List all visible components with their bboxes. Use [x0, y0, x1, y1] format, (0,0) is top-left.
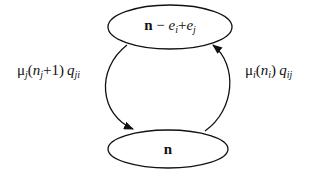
edge-left-arrow [105, 45, 133, 129]
n-vector: n [164, 141, 172, 157]
mu-symbol: μ [245, 62, 253, 78]
edge-right-arrow [205, 45, 230, 131]
node-top-label: n − ei+ej [130, 18, 210, 33]
q-symbol: q [67, 62, 75, 78]
subscript: j [193, 24, 196, 35]
subscript: ij [287, 69, 293, 80]
mu-symbol: μ [17, 62, 25, 78]
subscript: ji [75, 69, 81, 80]
q-symbol: q [279, 62, 287, 78]
paren: ) [271, 62, 276, 78]
n-vector: n [144, 17, 152, 33]
edge-right-label: μi(ni) qij [245, 63, 292, 78]
node-bottom-label: n [158, 142, 178, 157]
plus-one: +1) [43, 62, 64, 78]
edge-left-label: μj(nj+1) qji [17, 63, 80, 78]
minus-sign: − [153, 17, 169, 33]
